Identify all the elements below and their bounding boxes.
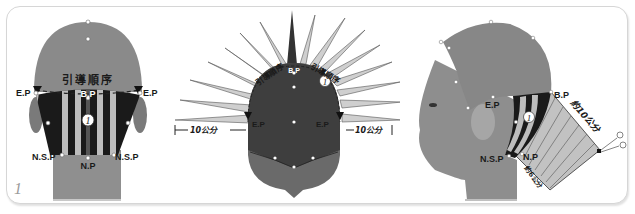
label-ep-right: E.P <box>316 120 330 129</box>
measure-left: 10公分 <box>190 126 218 135</box>
guide-number: 1 <box>527 113 532 123</box>
measure-right: 10公分 <box>355 126 383 135</box>
scissors-icon <box>597 132 626 153</box>
label-bp: B.P <box>80 89 95 99</box>
label-ep-left: E.P <box>16 88 31 98</box>
label-ep-right: E.P <box>143 88 158 98</box>
order-label: 引導順序 <box>62 73 114 87</box>
label-ep: E.P <box>485 100 500 110</box>
top-view-illustration: 1 B.P 引導順序 引導順序 E.P E.P 10公分 10公分 <box>170 0 400 214</box>
center-section <box>287 10 297 65</box>
label-ep-left: E.P <box>252 120 266 129</box>
label-np: N.P <box>523 152 538 162</box>
label-np: N.P <box>80 161 95 171</box>
back-view-panel: 1 引導順序 B.P E.P E.P N.S.P N.S.P N.P <box>0 0 180 214</box>
figure-number: 1 <box>14 180 22 198</box>
eye <box>429 103 437 107</box>
label-nsp: N.S.P <box>480 154 504 164</box>
side-view-panel: 1 E.P B.P N.S.P N.P 約10公分 約6公分 <box>405 0 630 214</box>
top-view-panel: 1 B.P 引導順序 引導順序 E.P E.P 10公分 10公分 <box>170 0 400 214</box>
label-bp: B.P <box>554 90 569 100</box>
label-nsp-right: N.S.P <box>115 152 139 162</box>
label-nsp-left: N.S.P <box>32 152 56 162</box>
guide-number: 1 <box>86 115 91 126</box>
side-view-illustration: 1 E.P B.P N.S.P N.P 約10公分 約6公分 <box>405 0 630 214</box>
back-view-illustration: 1 引導順序 B.P E.P E.P N.S.P N.S.P N.P <box>0 0 180 214</box>
label-bp: B.P <box>288 67 300 74</box>
